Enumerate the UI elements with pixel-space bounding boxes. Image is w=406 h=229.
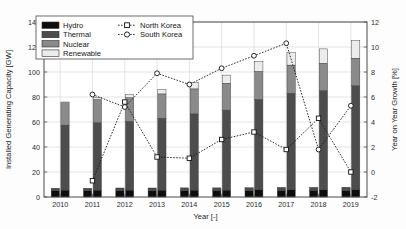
marker-circle-south-korea bbox=[348, 103, 353, 108]
tick-label-x: 2010 bbox=[52, 200, 68, 209]
bar-segment-nuclear bbox=[93, 100, 101, 123]
tick-label-x: 2013 bbox=[149, 200, 165, 209]
tick-label-right: -2 bbox=[371, 193, 377, 202]
tick-label-right: 8 bbox=[371, 68, 375, 77]
bar-segment-thermal bbox=[255, 100, 263, 190]
bar-segment-hydro bbox=[287, 190, 295, 198]
tick-label-x: 2019 bbox=[343, 200, 359, 209]
tick-label-x: 2012 bbox=[117, 200, 133, 209]
bar-segment-hydro bbox=[180, 191, 188, 197]
marker-circle-south-korea bbox=[252, 53, 257, 58]
bar-segment-nuclear bbox=[61, 103, 69, 126]
axis-label-y: Installed Generating Capacity [GW] bbox=[4, 50, 13, 169]
tick-label-right: 12 bbox=[371, 18, 379, 27]
bar-segment-thermal bbox=[83, 188, 91, 191]
bar-segment-thermal bbox=[319, 91, 327, 190]
tick-label-left: 80 bbox=[32, 93, 40, 102]
bar-segment-hydro bbox=[125, 190, 133, 197]
bar-segment-hydro bbox=[83, 191, 91, 197]
bar-segment-thermal bbox=[61, 125, 69, 190]
bar-segment-thermal bbox=[51, 188, 59, 191]
tick-label-x: 2015 bbox=[214, 200, 230, 209]
marker-square-north-korea bbox=[316, 116, 320, 120]
legend-label-renewable: Renewable bbox=[63, 49, 101, 58]
tick-label-x: 2018 bbox=[311, 200, 327, 209]
bar-segment-renewable bbox=[352, 41, 360, 59]
legend-label-north-korea: North Korea bbox=[140, 21, 182, 30]
marker-circle-south-korea bbox=[284, 41, 289, 46]
marker-square-north-korea bbox=[123, 100, 127, 104]
bar-segment-hydro bbox=[93, 190, 101, 197]
tick-label-x: 2017 bbox=[278, 200, 294, 209]
marker-circle-south-korea bbox=[122, 105, 127, 110]
bar-segment-thermal bbox=[116, 188, 124, 191]
tick-label-right: 10 bbox=[371, 43, 379, 52]
tick-label-x: 2016 bbox=[246, 200, 262, 209]
tick-label-left: 40 bbox=[32, 143, 40, 152]
bar-segment-thermal bbox=[342, 187, 350, 190]
marker-circle-south-korea bbox=[219, 66, 224, 71]
tick-label-right: 6 bbox=[371, 93, 375, 102]
tick-label-left: 0 bbox=[36, 193, 40, 202]
tick-label-right: 4 bbox=[371, 118, 375, 127]
legend-swatch-thermal bbox=[42, 31, 59, 37]
axis-label-y2: Year on Year Growth [%] bbox=[390, 68, 399, 151]
legend-marker-square bbox=[125, 23, 130, 28]
marker-circle-south-korea bbox=[316, 147, 321, 152]
bar-segment-thermal bbox=[277, 187, 285, 190]
bar-segment-hydro bbox=[319, 190, 327, 198]
marker-circle-south-korea bbox=[187, 82, 192, 87]
bar-segment-hydro bbox=[342, 191, 350, 198]
bar-segment-thermal bbox=[245, 188, 253, 191]
bar-segment-thermal bbox=[287, 93, 295, 189]
bar-segment-hydro bbox=[310, 191, 318, 198]
bar-segment-renewable bbox=[93, 98, 101, 100]
bar-segment-nuclear bbox=[222, 83, 230, 110]
bar-segment-renewable bbox=[61, 102, 69, 103]
bar-segment-hydro bbox=[255, 190, 263, 198]
bar-segment-renewable bbox=[125, 95, 133, 98]
bar-segment-hydro bbox=[148, 191, 156, 197]
bar-segment-hydro bbox=[61, 190, 69, 197]
legend-label-south-korea: South Korea bbox=[140, 30, 183, 39]
legend-swatch-renewable bbox=[42, 50, 59, 56]
marker-square-north-korea bbox=[90, 179, 94, 183]
bar-segment-thermal bbox=[213, 188, 221, 191]
bar-segment-thermal bbox=[310, 187, 318, 190]
bar-segment-hydro bbox=[352, 190, 360, 198]
bar-segment-hydro bbox=[245, 191, 253, 197]
bar-segment-hydro bbox=[116, 191, 124, 197]
tick-label-left: 100 bbox=[28, 68, 40, 77]
tick-label-right: 2 bbox=[371, 143, 375, 152]
tick-label-x: 2014 bbox=[181, 200, 197, 209]
marker-square-north-korea bbox=[187, 156, 191, 160]
bar-segment-thermal bbox=[222, 110, 230, 190]
bar-segment-thermal bbox=[125, 121, 133, 190]
tick-label-left: 20 bbox=[32, 168, 40, 177]
marker-square-north-korea bbox=[349, 170, 353, 174]
marker-square-north-korea bbox=[252, 130, 256, 134]
bar-segment-nuclear bbox=[255, 71, 263, 99]
bar-segment-hydro bbox=[190, 190, 198, 197]
bar-segment-thermal bbox=[180, 188, 188, 191]
bar-segment-thermal bbox=[158, 118, 166, 190]
bar-segment-nuclear bbox=[287, 65, 295, 93]
bar-segment-hydro bbox=[222, 190, 230, 197]
bar-segment-hydro bbox=[158, 190, 166, 197]
marker-square-north-korea bbox=[155, 155, 159, 159]
bar-segment-hydro bbox=[213, 191, 221, 197]
bar-segment-hydro bbox=[277, 191, 285, 198]
bar-segment-renewable bbox=[222, 75, 230, 83]
legend-label-nuclear: Nuclear bbox=[63, 40, 90, 49]
legend-label-hydro: Hydro bbox=[63, 21, 83, 30]
bar-segment-renewable bbox=[255, 61, 263, 71]
marker-square-north-korea bbox=[284, 147, 288, 151]
tick-label-left: 60 bbox=[32, 118, 40, 127]
bar-segment-nuclear bbox=[158, 94, 166, 118]
legend-swatch-nuclear bbox=[42, 41, 59, 47]
tick-label-right: 0 bbox=[371, 168, 375, 177]
legend-marker-circle bbox=[124, 32, 129, 37]
axis-label-x: Year [-] bbox=[193, 212, 217, 221]
bar-segment-renewable bbox=[319, 49, 327, 63]
bar-segment-nuclear bbox=[190, 89, 198, 114]
